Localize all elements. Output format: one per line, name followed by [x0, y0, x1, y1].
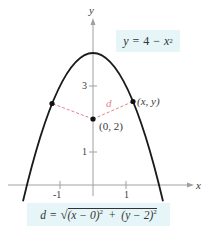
x-axis-arrow-icon	[187, 183, 194, 188]
distance-line-left	[52, 104, 93, 120]
formula-lhs: d	[40, 209, 46, 221]
x-tick-label-neg1: -1	[53, 190, 61, 200]
center-point-label: (0, 2)	[99, 121, 123, 132]
formula-plus: +	[109, 209, 116, 221]
x-tick-label-1: 1	[124, 190, 129, 200]
radical-sign-icon: √	[60, 208, 67, 221]
square-root: √ (x − 0)2 + (y − 2)2	[60, 208, 156, 221]
formula-equals: =	[50, 209, 57, 221]
mirror-curve-point	[49, 101, 54, 106]
radicand: (x − 0)2 + (y − 2)2	[68, 208, 157, 221]
curve-point-label: (x, y)	[137, 96, 160, 107]
y-tick-label-3: 3	[82, 81, 87, 91]
eq-minus: −	[153, 34, 160, 49]
y-axis-arrow-icon	[91, 18, 96, 25]
formula-term1: (x − 0)	[68, 209, 100, 221]
distance-line-right	[93, 102, 133, 120]
eq-lhs: y	[123, 34, 128, 49]
eq-const: 4	[143, 34, 149, 49]
eq-equals: =	[132, 34, 139, 49]
curve-point	[130, 99, 135, 104]
x-axis-label: x	[196, 180, 201, 191]
eq-exp: 2	[169, 37, 173, 45]
formula-term2: (y − 2)	[121, 209, 153, 221]
parabola-equation-box: y = 4 − x2	[116, 30, 180, 52]
y-axis-label: y	[89, 5, 94, 16]
distance-formula-box: d = √ (x − 0)2 + (y − 2)2	[27, 203, 170, 226]
distance-label: d	[106, 98, 112, 109]
parabola-distance-diagram: y x -1 1 1 3 (0, 2) (x, y) d y = 4 − x2 …	[0, 0, 205, 238]
center-point	[90, 116, 95, 121]
y-tick-label-1: 1	[82, 147, 87, 157]
formula-term2-exp: 2	[153, 208, 157, 216]
formula-term1-exp: 2	[100, 208, 104, 216]
